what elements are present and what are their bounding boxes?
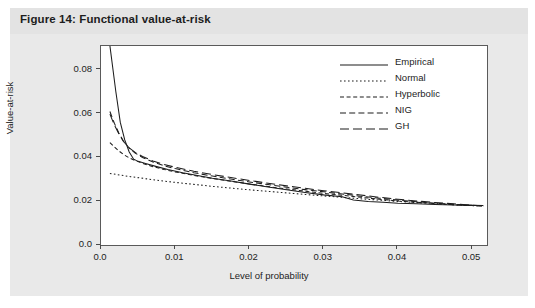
legend-item-normal: Normal: [340, 69, 440, 85]
series-line-hyperbolic: [110, 143, 483, 206]
y-tick-mark: [96, 200, 100, 201]
x-tick-label: 0.02: [228, 251, 268, 262]
figure-panel: Figure 14: Functional value-at-risk Valu…: [10, 8, 528, 296]
legend-item-hyperbolic: Hyperbolic: [340, 85, 440, 101]
x-tick-mark: [100, 245, 101, 249]
legend-line-sample: [340, 104, 388, 114]
y-tick-mark: [96, 156, 100, 157]
y-tick-label: 0.02: [58, 194, 92, 205]
legend-label: Empirical: [395, 56, 434, 67]
x-tick-label: 0.01: [154, 251, 194, 262]
x-tick-mark: [471, 245, 472, 249]
legend-line-sample: [340, 72, 388, 82]
x-tick-label: 0.04: [377, 251, 417, 262]
y-tick-mark: [96, 68, 100, 69]
legend-line-sample: [340, 88, 388, 98]
y-tick-mark: [96, 112, 100, 113]
x-axis-label: Level of probability: [10, 270, 528, 281]
legend-label: Normal: [395, 72, 426, 83]
legend-label: NIG: [395, 104, 412, 115]
x-tick-label: 0.0: [80, 251, 120, 262]
figure-caption: Figure 14: Functional value-at-risk: [20, 13, 211, 25]
legend-label: Hyperbolic: [395, 88, 440, 99]
x-tick-label: 0.05: [451, 251, 491, 262]
x-tick-mark: [322, 245, 323, 249]
legend-item-empirical: Empirical: [340, 53, 440, 69]
y-axis-label: Value-at-risk: [4, 82, 15, 135]
series-line-normal: [110, 173, 483, 206]
chart-legend: EmpiricalNormalHyperbolicNIGGH: [340, 53, 440, 133]
y-tick-label: 0.0: [58, 238, 92, 249]
x-tick-mark: [248, 245, 249, 249]
x-tick-mark: [396, 245, 397, 249]
x-tick-mark: [174, 245, 175, 249]
y-tick-label: 0.04: [58, 150, 92, 161]
legend-item-gh: GH: [340, 117, 440, 133]
legend-label: GH: [395, 120, 409, 131]
figure-caption-bar: Figure 14: Functional value-at-risk: [10, 8, 528, 34]
x-tick-label: 0.03: [303, 251, 343, 262]
y-tick-label: 0.08: [58, 63, 92, 74]
legend-line-sample: [340, 120, 388, 130]
legend-item-nig: NIG: [340, 101, 440, 117]
y-tick-label: 0.06: [58, 107, 92, 118]
legend-line-sample: [340, 56, 388, 66]
